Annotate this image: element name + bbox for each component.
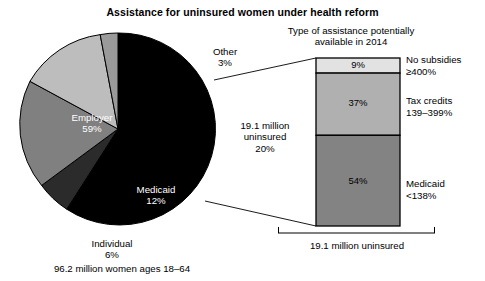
stacked-bar xyxy=(316,58,400,226)
bar-axis-bracket xyxy=(278,227,435,233)
pie-footnote: 96.2 million women ages 18–64 xyxy=(12,263,232,274)
connector-bottom xyxy=(205,201,316,226)
bar-value-no-subsidies: 9% xyxy=(316,59,400,70)
pie-label-medicaid-name: Medicaid xyxy=(137,184,176,195)
bar-label-medicaid-line1: Medicaid xyxy=(406,178,445,189)
pie-label-uninsured: 19.1 million uninsured 20% xyxy=(222,120,308,154)
pie-label-medicaid-value: 12% xyxy=(146,195,165,206)
pie-label-employer: Employer 59% xyxy=(38,112,146,135)
pie-label-uninsured-line2: uninsured xyxy=(244,131,287,142)
bar-label-tax-credits: Tax credits 139–399% xyxy=(406,95,482,119)
chart-title: Assistance for uninsured women under hea… xyxy=(0,6,485,18)
bar-label-medicaid: Medicaid <138% xyxy=(406,178,482,202)
pie-label-other-value: 3% xyxy=(218,57,232,68)
bar-subtitle-line1: Type of assistance potentially xyxy=(288,25,415,36)
bar-label-no-subsidies: No subsidies ≥400% xyxy=(406,54,482,78)
bar-label-no-subsidies-line1: No subsidies xyxy=(406,54,461,65)
bar-axis-label: 19.1 million uninsured xyxy=(268,240,446,251)
pie-label-other: Other 3% xyxy=(196,46,254,69)
bar-subtitle-line2: available in 2014 xyxy=(315,36,388,47)
pie-label-other-name: Other xyxy=(213,46,237,57)
pie-label-medicaid: Medicaid 12% xyxy=(120,184,192,207)
pie-label-employer-value: 59% xyxy=(82,123,101,134)
bar-subtitle: Type of assistance potentially available… xyxy=(268,25,434,48)
pie-label-individual-name: Individual xyxy=(92,238,133,249)
pie-label-individual: Individual 6% xyxy=(62,238,162,261)
bar-value-tax-credits: 37% xyxy=(316,97,400,108)
bar-label-tax-credits-line2: 139–399% xyxy=(406,107,452,118)
pie-label-individual-value: 6% xyxy=(105,249,119,260)
bar-value-medicaid: 54% xyxy=(316,175,400,186)
bar-label-tax-credits-line1: Tax credits xyxy=(406,95,452,106)
figure-root: Assistance for uninsured women under hea… xyxy=(0,0,485,281)
pie-label-uninsured-line1: 19.1 million xyxy=(240,120,289,131)
pie-label-uninsured-value: 20% xyxy=(255,143,274,154)
bar-label-no-subsidies-line2: ≥400% xyxy=(406,66,436,77)
pie-label-employer-name: Employer xyxy=(72,112,113,123)
bar-label-medicaid-line2: <138% xyxy=(406,190,436,201)
